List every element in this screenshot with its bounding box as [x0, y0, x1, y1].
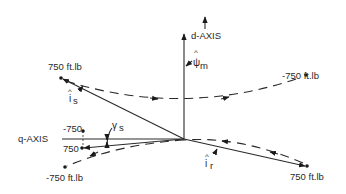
angle-subscript: s	[119, 122, 124, 133]
flux-subscript: m	[200, 60, 208, 71]
d-axis-label: d-AXIS	[191, 30, 221, 41]
d-axis: d-AXIS	[184, 17, 221, 139]
label-rotor-750: 750 ft.lb	[290, 171, 324, 182]
flux-label: ^ ψ m	[186, 48, 208, 71]
d-q-vector-diagram: d-AXIS ^ ψ m q-AXIS γ s ^ i s	[0, 0, 346, 194]
q-axis-label: q-AXIS	[18, 133, 48, 144]
label-rotor-neg750: -750 ft.lb	[46, 172, 83, 183]
stator-subscript: s	[73, 95, 78, 106]
flux-hat: ^	[194, 48, 198, 57]
flux-pointer-arrow-icon	[186, 61, 192, 66]
angle-symbol: γ	[112, 120, 117, 131]
point-rotor-750	[305, 164, 309, 168]
label-q-neg750: -750	[63, 123, 82, 134]
stator-current-label: ^ i s	[68, 86, 83, 106]
stator-angle-label: γ s	[107, 120, 124, 146]
stator-locus-arrow-icon	[221, 97, 229, 99]
point-stator-750	[59, 76, 63, 80]
stator-symbol: i	[69, 93, 71, 104]
rotor-subscript: r	[210, 160, 213, 171]
rotor-symbol: i	[205, 158, 207, 169]
rotor-locus-arrow-icon	[90, 152, 98, 156]
q-axis: q-AXIS	[18, 133, 184, 144]
point-rotor-neg750	[63, 165, 67, 169]
rotor-pointer-arrow-icon	[215, 149, 217, 153]
point-q-750	[80, 146, 84, 150]
rotor-current-vector	[184, 139, 305, 166]
label-stator-750: 750 ft.lb	[48, 61, 82, 72]
label-q-750: 750	[63, 143, 79, 154]
rotor-current-label: ^ i r	[205, 149, 217, 171]
label-stator-neg750: -750 ft.lb	[282, 70, 319, 81]
